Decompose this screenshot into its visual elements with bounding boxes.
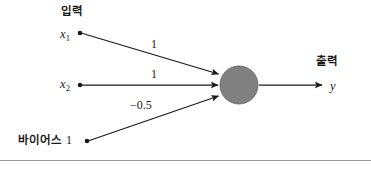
bottom-divider [0, 160, 371, 161]
bias-label-text: 바이어스 [18, 133, 62, 147]
neuron-circle [220, 66, 258, 104]
input-label-x1-subscript: 1 [66, 33, 70, 43]
input-label-x1: x1 [60, 28, 70, 41]
bias-value: 1 [66, 133, 72, 147]
output-section-header: 출력 [316, 56, 338, 68]
input-node-dot-x2 [78, 83, 83, 88]
output-label-y: y [330, 80, 336, 93]
input-node-dot-x1 [78, 31, 83, 36]
bias-label: 바이어스 1 [18, 134, 72, 147]
weight-label-bias: −0.5 [130, 99, 152, 111]
weight-label-x2: 1 [151, 68, 157, 80]
input-node-dot-bias [85, 139, 90, 144]
figure-canvas: 입력 출력 x1 x2 바이어스 1 1 1 −0.5 y [0, 0, 371, 174]
weight-label-x1: 1 [151, 38, 157, 50]
input-label-x2-subscript: 2 [66, 83, 70, 93]
perceptron-diagram-svg [0, 0, 371, 174]
connection-x1-to-neuron [81, 33, 219, 74]
input-label-x2-base: x [60, 77, 66, 91]
connection-bias-to-neuron [88, 96, 219, 141]
input-section-header: 입력 [61, 6, 83, 18]
input-label-x1-base: x [60, 27, 66, 41]
input-label-x2: x2 [60, 78, 70, 91]
